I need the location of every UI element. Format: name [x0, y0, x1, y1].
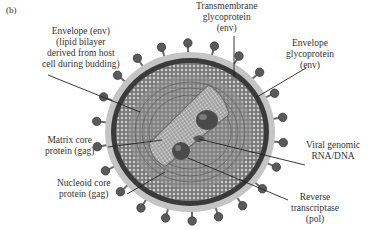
spike-head-icon [137, 204, 145, 212]
spike-head-icon [255, 68, 263, 76]
spike-head-icon [99, 93, 107, 101]
spike-head-icon [92, 117, 100, 125]
spike-head-icon [157, 43, 165, 51]
label-transmembrane-glycoprotein: Transmembrane glycoprotein (env) [196, 1, 257, 34]
spike-head-icon [235, 52, 243, 60]
label-reverse-transcriptase: Reverse transcriptase (pol) [291, 192, 339, 225]
label-matrix-core-protein: Matrix core protein (gag) [45, 135, 94, 157]
label-envelope-env: Envelope (env) (lipid bilayer derived fr… [42, 26, 120, 70]
spike-head-icon [188, 217, 196, 225]
spike-head-icon [214, 213, 222, 221]
spike-head-icon [93, 142, 101, 150]
spike-head-icon [238, 202, 246, 210]
label-viral-genomic-rna-dna: Viral genomic RNA/DNA [306, 140, 360, 162]
spike-head-icon [184, 39, 192, 47]
spike-head-icon [279, 113, 287, 121]
spike-head-icon [272, 163, 280, 171]
label-envelope-glycoprotein: Envelope glycoprotein (env) [286, 38, 334, 71]
spike-head-icon [279, 138, 287, 146]
viral-rna-blob [196, 110, 218, 130]
spike-head-icon [258, 185, 266, 193]
spike-head-icon [210, 42, 218, 50]
reverse-transcriptase-blob [172, 142, 190, 160]
spike-head-icon [161, 214, 169, 222]
spike-head-icon [133, 54, 141, 62]
spike-head-icon [101, 167, 109, 175]
spike-head-icon [116, 188, 124, 196]
spike-head-icon [270, 89, 278, 97]
label-nucleoid-core-protein: Nucleoid core protein (gag) [57, 178, 111, 200]
leader-envelope-glyco [257, 68, 306, 97]
spike-head-icon [113, 71, 121, 79]
